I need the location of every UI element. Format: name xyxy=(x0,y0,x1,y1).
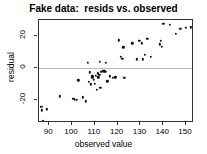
data-point xyxy=(105,61,107,63)
data-point xyxy=(123,77,125,79)
data-point xyxy=(106,80,108,82)
data-point xyxy=(99,61,101,63)
data-point xyxy=(146,37,148,39)
scatter-plot-figure: Fake data: resids vs. observed 901001101… xyxy=(0,0,207,154)
data-point xyxy=(136,58,138,60)
data-point xyxy=(59,95,61,97)
x-tick-label: 150 xyxy=(172,127,198,136)
data-point xyxy=(160,40,162,42)
data-point xyxy=(82,96,84,98)
data-point xyxy=(175,32,177,34)
data-point xyxy=(169,24,171,26)
data-point xyxy=(41,109,43,111)
plot-area xyxy=(38,19,193,122)
data-point xyxy=(162,23,164,25)
data-point xyxy=(40,106,42,108)
data-point xyxy=(144,53,146,55)
data-point xyxy=(77,79,79,81)
zero-reference-line xyxy=(39,68,192,69)
y-axis-label: residual xyxy=(6,37,16,97)
data-point xyxy=(121,57,123,59)
data-point xyxy=(122,46,124,48)
data-point xyxy=(90,83,92,85)
data-point xyxy=(46,108,48,110)
data-point xyxy=(131,42,133,44)
chart-title: Fake data: resids vs. observed xyxy=(0,3,207,14)
x-tick-mark xyxy=(71,122,72,125)
x-tick-mark xyxy=(94,122,95,125)
data-point xyxy=(142,58,144,60)
x-tick-mark xyxy=(48,122,49,125)
data-point xyxy=(94,82,96,84)
data-point xyxy=(114,76,116,78)
data-point xyxy=(85,100,87,102)
data-point xyxy=(95,89,97,91)
data-point xyxy=(185,27,187,29)
y-tick-mark xyxy=(34,67,37,68)
data-point xyxy=(140,42,142,44)
x-axis-label: observed value xyxy=(0,139,207,149)
data-point xyxy=(42,119,44,121)
x-tick-mark xyxy=(185,122,186,125)
y-tick-label: -20 xyxy=(18,89,27,109)
y-tick-label: 20 xyxy=(18,25,27,45)
y-tick-label: 0 xyxy=(18,57,27,77)
data-point xyxy=(97,76,99,78)
data-point xyxy=(118,39,120,41)
data-point xyxy=(75,98,77,100)
data-point xyxy=(89,71,91,73)
data-point xyxy=(189,26,191,28)
x-tick-mark xyxy=(162,122,163,125)
data-point xyxy=(99,86,101,88)
x-tick-mark xyxy=(117,122,118,125)
data-point xyxy=(179,28,181,30)
x-tick-mark xyxy=(139,122,140,125)
y-tick-mark xyxy=(34,99,37,100)
data-point xyxy=(104,70,106,72)
y-tick-mark xyxy=(34,35,37,36)
data-point xyxy=(108,75,110,77)
data-point xyxy=(87,61,89,63)
data-point xyxy=(149,56,151,58)
data-point xyxy=(160,45,162,47)
data-point xyxy=(93,78,95,80)
